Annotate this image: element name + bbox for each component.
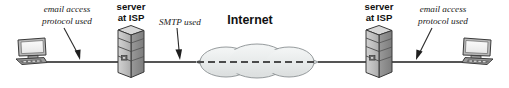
right-server-label-line1: server [365, 1, 394, 12]
left-server-label-line2: at ISP [118, 12, 145, 23]
right-protocol-label-line1: email access [420, 4, 467, 14]
smtp-label: SMTP used [159, 17, 201, 27]
diagram-canvas: email access protocol used server at ISP… [0, 0, 509, 88]
left-workstation [16, 38, 47, 65]
smtp-arrow [175, 28, 182, 60]
right-protocol-arrow [416, 28, 432, 60]
left-protocol-arrow [64, 28, 81, 60]
left-isp-server [118, 26, 144, 78]
left-protocol-label-line2: protocol used [41, 16, 92, 26]
right-workstation [462, 38, 493, 65]
right-protocol-label-line2: protocol used [417, 16, 468, 26]
right-isp-server [366, 26, 392, 78]
right-server-label-line2: at ISP [366, 12, 393, 23]
network-diagram: email access protocol used server at ISP… [0, 0, 509, 88]
left-protocol-label-line1: email access [44, 4, 91, 14]
internet-cloud [196, 44, 318, 78]
internet-label: Internet [227, 13, 272, 27]
left-server-label-line1: server [117, 1, 146, 12]
